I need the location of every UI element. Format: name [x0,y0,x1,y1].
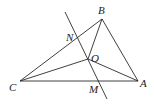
triangle-segments [20,19,138,81]
geometry-diagram: A B C O N M [0,0,154,110]
segment-BC [20,19,102,81]
label-C: C [9,81,17,93]
label-A: A [139,77,147,89]
segment-OC [20,59,88,81]
segment-AB [102,19,138,81]
label-M: M [88,83,99,95]
label-O: O [91,52,99,64]
label-B: B [98,4,105,16]
perpendicular-bisector-line [65,12,107,99]
label-N: N [65,31,74,43]
